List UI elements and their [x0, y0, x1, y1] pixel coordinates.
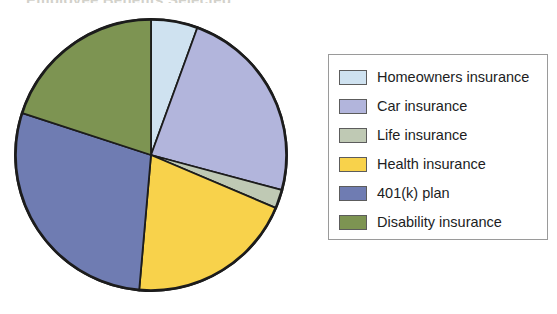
legend-label-health-insurance: Health insurance [377, 157, 486, 172]
legend-label-car-insurance: Car insurance [377, 99, 467, 114]
legend-item-401k-plan[interactable]: 401(k) plan [339, 179, 547, 208]
legend: Homeowners insurance Car insurance Life … [328, 54, 548, 240]
legend-item-life-insurance[interactable]: Life insurance [339, 121, 547, 150]
pie-chart-figure: Employee Benefits Selected Homeowners in… [0, 0, 557, 314]
legend-item-disability-insurance[interactable]: Disability insurance [339, 208, 547, 237]
legend-item-health-insurance[interactable]: Health insurance [339, 150, 547, 179]
legend-swatch-401k-plan [339, 186, 367, 201]
page-title: Employee Benefits Selected [26, 0, 326, 3]
legend-swatch-car-insurance [339, 99, 367, 114]
pie-chart [14, 18, 288, 292]
legend-label-life-insurance: Life insurance [377, 128, 467, 143]
legend-item-homeowners-insurance[interactable]: Homeowners insurance [339, 63, 547, 92]
legend-label-401k-plan: 401(k) plan [377, 186, 450, 201]
legend-swatch-health-insurance [339, 157, 367, 172]
legend-label-disability-insurance: Disability insurance [377, 215, 502, 230]
legend-label-homeowners-insurance: Homeowners insurance [377, 70, 529, 85]
legend-swatch-homeowners-insurance [339, 70, 367, 85]
legend-swatch-disability-insurance [339, 215, 367, 230]
pie-chart-svg [14, 18, 288, 292]
legend-item-car-insurance[interactable]: Car insurance [339, 92, 547, 121]
legend-swatch-life-insurance [339, 128, 367, 143]
